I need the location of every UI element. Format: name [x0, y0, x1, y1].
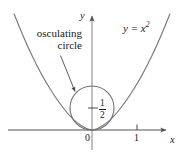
parabola-equation-exponent: 2 [146, 20, 150, 29]
annotation-leader-line [61, 56, 76, 92]
fraction-numerator: 1 [99, 99, 106, 110]
fraction-denominator: 2 [99, 110, 106, 120]
x-tick-label-one: 1 [134, 133, 139, 144]
osculating-circle-figure: osculating circle y = x2 x y 0 1 1 2 [0, 0, 185, 157]
osculating-circle-annotation: osculating circle [14, 28, 82, 51]
circle-center-fraction-label: 1 2 [99, 99, 106, 120]
annotation-line-2: circle [14, 40, 82, 52]
figure-canvas [0, 0, 185, 157]
annotation-line-1: osculating [14, 28, 82, 40]
y-axis-label: y [80, 10, 85, 21]
x-axis-label: x [170, 134, 175, 145]
parabola-equation-label: y = x2 [123, 21, 149, 34]
parabola-equation-base: y = x [123, 22, 146, 34]
origin-tick-label: 0 [85, 133, 90, 144]
